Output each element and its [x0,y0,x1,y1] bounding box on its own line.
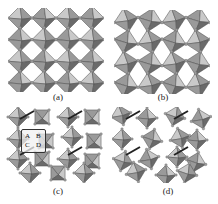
cell-label-a: A [25,132,30,140]
panel-b-structure [114,10,210,94]
cell-label-c: C [25,141,30,149]
octahedra-grid-a [8,8,104,92]
panel-a-structure [8,8,104,92]
caption-c: (c) [38,186,78,196]
caption-a: (a) [38,92,78,102]
octahedra-grid-d [112,107,212,183]
unit-cell-label-box: A B C D [21,129,46,153]
caption-b: (b) [143,92,183,102]
octahedra-grid-b [114,10,210,94]
cell-label-b: B [36,132,41,140]
cell-label-d: D [36,141,41,149]
caption-d: (d) [148,186,188,196]
panel-d-structure [112,107,212,183]
